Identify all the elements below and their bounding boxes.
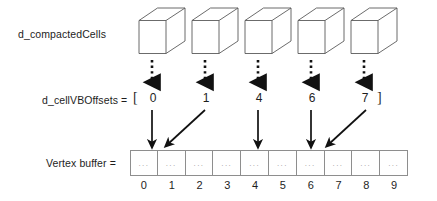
vertex-buffer-cell: ... xyxy=(297,150,325,176)
bracket-close: ] xyxy=(377,90,382,106)
wireframe-cube-icon xyxy=(139,8,185,54)
vertex-buffer-cell: ... xyxy=(325,150,353,176)
vertex-buffer-cell: ... xyxy=(186,150,214,176)
wireframe-cube-icon xyxy=(192,8,238,54)
offset-value: 0 xyxy=(146,91,160,105)
vertex-buffer-index: 6 xyxy=(297,179,325,191)
vertex-buffer-index: 8 xyxy=(352,179,380,191)
vertex-buffer-cell: ... xyxy=(213,150,241,176)
vertex-buffer-index: 2 xyxy=(186,179,214,191)
vertex-buffer-index: 1 xyxy=(158,179,186,191)
vertex-buffer-index: 0 xyxy=(130,179,158,191)
vertex-buffer-cell: ... xyxy=(241,150,269,176)
wireframe-cube-icon xyxy=(298,8,344,54)
offset-value: 7 xyxy=(358,91,372,105)
vertex-buffer-index: 3 xyxy=(213,179,241,191)
cell-vbo-offsets-label: d_cellVBOffsets = xyxy=(42,94,127,106)
vertex-buffer-cell: ... xyxy=(130,150,158,176)
vertex-buffer-index: 4 xyxy=(241,179,269,191)
solid-arrows-group xyxy=(152,110,366,144)
bracket-open: [ xyxy=(133,90,138,106)
dotted-arrows-group xyxy=(152,60,364,82)
vertex-buffer-cell: ... xyxy=(269,150,297,176)
solid-diagonal-arrow xyxy=(329,110,366,144)
offset-value: 1 xyxy=(199,91,213,105)
compacted-cells-label: d_compactedCells xyxy=(18,28,106,40)
vertex-buffer-cell: ... xyxy=(158,150,186,176)
wireframe-cube-icon xyxy=(245,8,291,54)
vertex-buffer-label: Vertex buffer = xyxy=(46,157,116,169)
offset-value: 4 xyxy=(252,91,266,105)
vertex-buffer-index: 5 xyxy=(269,179,297,191)
solid-diagonal-arrow xyxy=(168,110,205,144)
vertex-buffer-index: 7 xyxy=(325,179,353,191)
compacted-cells-group xyxy=(139,8,397,54)
wireframe-cube-icon xyxy=(351,8,397,54)
offset-value: 6 xyxy=(305,91,319,105)
vertex-buffer-cell: ... xyxy=(380,150,408,176)
vertex-buffer-cell: ... xyxy=(352,150,380,176)
vertex-buffer-index: 9 xyxy=(380,179,408,191)
